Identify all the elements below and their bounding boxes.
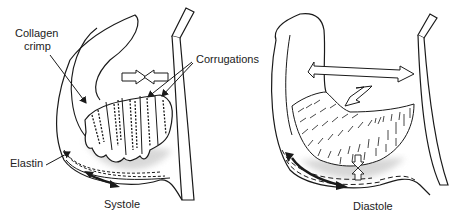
label-collagen: Collagen <box>15 27 58 40</box>
label-crimp: crimp <box>15 40 58 53</box>
label-collagen-crimp: Collagen crimp <box>15 27 58 53</box>
caption-systole: Systole <box>104 198 140 210</box>
caption-diastole: Diastole <box>353 200 393 212</box>
systole-panel <box>46 8 194 200</box>
diagonal-bidirectional-arrow-icon <box>345 86 372 106</box>
diastole-panel <box>272 14 448 195</box>
bidirectional-arrow-icon <box>84 171 120 188</box>
label-elastin: Elastin <box>10 157 43 170</box>
systole-aortic-wall <box>172 8 194 38</box>
compression-arrows-icon <box>122 70 168 84</box>
valve-leaflet-diagram <box>0 0 454 220</box>
label-corrugations: Corrugations <box>196 53 259 66</box>
